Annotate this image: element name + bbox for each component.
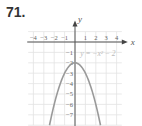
y-tick-label: −6: [66, 101, 74, 108]
x-tick-label: 2: [94, 34, 97, 41]
y-tick-label: −5: [66, 90, 73, 97]
x-tick-label: 4: [115, 34, 119, 41]
y-tick-label: −1: [66, 49, 73, 56]
x-tick-label: −2: [51, 34, 58, 41]
y-axis-label: y: [77, 14, 82, 24]
x-tick-label: 3: [105, 34, 108, 41]
equation-label: y = −x² − 2: [79, 49, 116, 58]
x-tick-label: −3: [40, 34, 47, 41]
parabola-graph: xy−4−3−2−11234−1−2−3−4−5−6−7y = −x² − 2: [0, 0, 142, 126]
x-tick-label: 1: [84, 34, 87, 41]
x-tick-label: −4: [30, 34, 38, 41]
x-tick-label: −1: [61, 34, 68, 41]
x-axis-arrow-icon: [122, 40, 128, 45]
y-tick-label: −3: [66, 70, 73, 77]
x-axis-label: x: [130, 37, 135, 47]
y-axis-arrow-icon: [73, 21, 78, 27]
y-tick-label: −4: [66, 80, 74, 87]
y-tick-label: −7: [66, 111, 74, 118]
